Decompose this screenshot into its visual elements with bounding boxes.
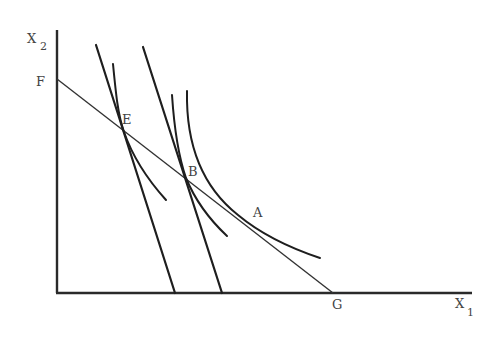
svg-text:X: X — [455, 296, 465, 311]
budget-line-fg — [57, 79, 333, 293]
point-label-g: G — [332, 297, 342, 312]
point-label-b: B — [188, 164, 198, 179]
point-label-a: A — [252, 205, 263, 220]
x-axis-label: X 1 — [455, 296, 474, 319]
indifference-diagram: X 2 X 1 F E B A G — [0, 0, 495, 338]
svg-text:X: X — [27, 31, 37, 46]
y-axis-label: X 2 — [27, 31, 47, 53]
svg-text:2: 2 — [40, 40, 47, 53]
steep-line-through-e — [96, 45, 175, 293]
point-label-e: E — [122, 112, 132, 127]
svg-text:1: 1 — [467, 306, 474, 319]
indifference-curve-a — [187, 91, 320, 258]
point-label-f: F — [36, 74, 45, 89]
